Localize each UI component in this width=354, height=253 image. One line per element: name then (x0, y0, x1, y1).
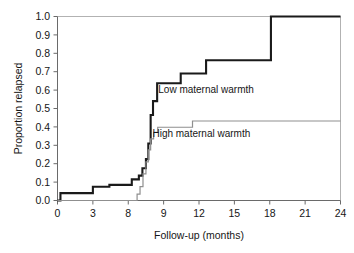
y-axis-title: Proportion relapsed (12, 63, 24, 155)
y-tick-label: 0.7 (35, 65, 50, 77)
y-axis-tick-labels: 0.00.10.20.30.40.50.60.70.80.91.0 (35, 10, 50, 206)
y-tick-label: 0.2 (35, 157, 50, 169)
chart-figure: 0.00.10.20.30.40.50.60.70.80.91.0 038912… (0, 0, 354, 253)
x-tick-label: 0 (55, 207, 61, 219)
x-tick-label: 12 (193, 207, 205, 219)
y-tick-label: 1.0 (35, 10, 50, 22)
x-tick-label: 21 (299, 207, 311, 219)
y-tick-label: 0.8 (35, 47, 50, 59)
relapse-survival-chart: 0.00.10.20.30.40.50.60.70.80.91.0 038912… (0, 0, 354, 253)
x-tick-label: 24 (335, 207, 347, 219)
y-tick-label: 0.1 (35, 176, 50, 188)
series-annotation-label: Low maternal warmth (158, 84, 254, 95)
x-tick-label: 18 (264, 207, 276, 219)
x-axis-title: Follow-up (months) (154, 229, 244, 241)
series-annotation-label: High maternal warmth (152, 128, 250, 139)
y-tick-label: 0.3 (35, 139, 50, 151)
y-tick-label: 0.0 (35, 194, 50, 206)
y-tick-label: 0.4 (35, 121, 50, 133)
x-tick-label: 15 (229, 207, 241, 219)
y-tick-label: 0.5 (35, 102, 50, 114)
x-tick-label: 8 (125, 207, 131, 219)
y-tick-label: 0.6 (35, 84, 50, 96)
x-tick-label: 3 (90, 207, 96, 219)
x-tick-label: 9 (161, 207, 167, 219)
y-tick-label: 0.9 (35, 29, 50, 41)
